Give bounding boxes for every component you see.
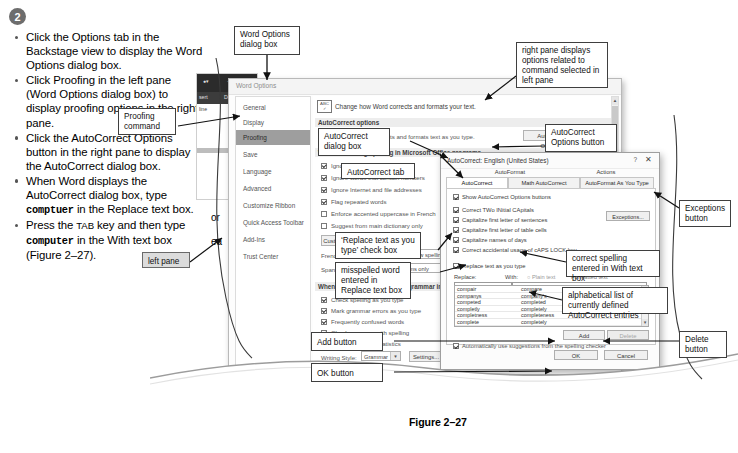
callout-autocorrect-tab: AutoCorrect tab <box>341 163 415 179</box>
callout-ok-button: OK button <box>311 363 383 382</box>
callout-autocorrect-options-button: AutoCorrectOptions button <box>545 124 617 152</box>
callout-left-pane: left pane <box>142 252 190 268</box>
callout-exceptions-button: Exceptionsbutton <box>679 200 731 227</box>
callout-replace-text-check-box: ‘Replace text as you type’ check box <box>335 232 421 259</box>
callout-misspelled-word: misspelled word entered in Replace text … <box>335 262 411 299</box>
callout-word-options-dialog-box: Word Optionsdialog box <box>234 26 300 55</box>
callout-alphabetical-list: alphabetical list of currently defined A… <box>562 287 668 314</box>
leader-lines <box>0 0 738 453</box>
callout-add-button: Add button <box>311 332 383 351</box>
callout-delete-button: Deletebutton <box>679 331 727 358</box>
callout-correct-spelling: correct spelling entered in With text bo… <box>566 250 660 277</box>
callout-right-pane: right pane displays options related to c… <box>516 42 608 88</box>
callout-proofing-command: Proofingcommand <box>118 108 176 135</box>
callout-autocorrect-dialog-box: AutoCorrectdialog box <box>318 128 390 156</box>
